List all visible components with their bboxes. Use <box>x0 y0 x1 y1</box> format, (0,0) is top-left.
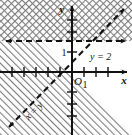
graph-canvas: y x O 1 1 y = 2 x = y <box>0 0 132 135</box>
origin-label: O <box>74 75 82 87</box>
cross-hatched-region <box>0 0 132 41</box>
y-axis-label: y <box>58 3 65 15</box>
horizontal-line-label: y = 2 <box>89 51 111 62</box>
y-axis-tick-label-1: 1 <box>62 47 67 58</box>
x-axis-label: x <box>120 74 127 86</box>
x-axis-tick-label-1: 1 <box>83 79 88 90</box>
inequality-graph-figure: y x O 1 1 y = 2 x = y <box>0 0 132 135</box>
